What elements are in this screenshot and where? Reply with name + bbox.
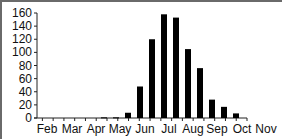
y-tick-label: 80: [19, 59, 33, 73]
x-tick-label: Sep: [206, 122, 228, 136]
y-axis: 020406080100120140160: [12, 6, 37, 125]
bar: [113, 117, 119, 118]
y-tick-label: 60: [19, 72, 33, 86]
y-tick-label: 40: [19, 85, 33, 99]
bar: [161, 14, 167, 118]
bar: [209, 100, 215, 118]
y-tick-label: 100: [12, 45, 32, 59]
x-tick-label: Feb: [37, 122, 58, 136]
y-tick-label: 0: [25, 111, 32, 125]
bar: [125, 113, 131, 118]
bar: [221, 107, 227, 118]
bar-series: [101, 14, 239, 118]
x-tick-label: May: [109, 122, 132, 136]
x-axis: FebMarAprMayJunJulAugSepOctNov: [34, 118, 277, 136]
x-tick-label: Jun: [135, 122, 154, 136]
bar-chart: 020406080100120140160 FebMarAprMayJunJul…: [0, 0, 282, 139]
y-tick-label: 140: [12, 19, 32, 33]
bar: [185, 49, 191, 118]
y-tick-label: 20: [19, 98, 33, 112]
bar: [173, 18, 179, 118]
x-tick-label: Oct: [233, 122, 252, 136]
bar: [137, 87, 143, 119]
x-tick-label: Aug: [182, 122, 203, 136]
x-tick-label: Nov: [255, 122, 276, 136]
x-tick-label: Jul: [161, 122, 176, 136]
bar: [233, 113, 239, 118]
bar: [149, 39, 155, 118]
x-tick-label: Apr: [87, 122, 106, 136]
bar: [197, 68, 203, 118]
y-tick-label: 160: [12, 6, 32, 20]
y-tick-label: 120: [12, 32, 32, 46]
bar: [101, 117, 107, 118]
x-tick-label: Mar: [62, 122, 83, 136]
